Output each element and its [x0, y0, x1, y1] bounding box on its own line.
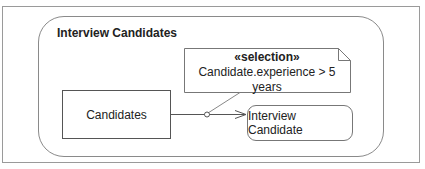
candidates-object-node: Candidates [62, 90, 171, 139]
note-anchor-line [208, 93, 240, 114]
note-stereotype: «selection» [184, 50, 350, 65]
selection-note: «selection» Candidate.experience > 5 yea… [184, 50, 350, 95]
interview-candidate-action: Interview Candidate [247, 105, 353, 141]
interview-candidate-label: Interview Candidate [248, 109, 352, 137]
candidates-label: Candidates [86, 108, 147, 122]
anchor-circle-icon [205, 112, 210, 117]
note-body: Candidate.experience > 5 years [184, 65, 350, 95]
